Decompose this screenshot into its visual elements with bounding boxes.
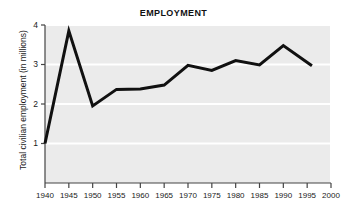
x-tick-label: 1945 (60, 191, 78, 200)
y-tick-label: 1 (33, 138, 38, 148)
x-tick-label: 1985 (251, 191, 269, 200)
y-tick-label: 3 (33, 59, 38, 69)
x-tick-label: 1970 (179, 191, 197, 200)
plot-area: 1234 19401945195019551960196519701975198… (0, 0, 347, 213)
y-axis-ticks: 1234 (33, 20, 45, 149)
x-tick-label: 1965 (155, 191, 173, 200)
x-tick-label: 1955 (108, 191, 126, 200)
x-tick-label: 1940 (36, 191, 54, 200)
y-tick-label: 2 (33, 99, 38, 109)
y-tick-label: 4 (33, 20, 38, 30)
x-tick-label: 1995 (298, 191, 316, 200)
x-tick-label: 1980 (227, 191, 245, 200)
x-tick-label: 1950 (84, 191, 102, 200)
chart-figure: EMPLOYMENT Total civilian employment (in… (0, 0, 347, 213)
x-tick-label: 1975 (203, 191, 221, 200)
x-tick-label: 1990 (274, 191, 292, 200)
x-tick-label: 2000 (322, 191, 340, 200)
x-axis-ticks: 1940194519501955196019651970197519801985… (36, 183, 340, 200)
x-tick-label: 1960 (131, 191, 149, 200)
